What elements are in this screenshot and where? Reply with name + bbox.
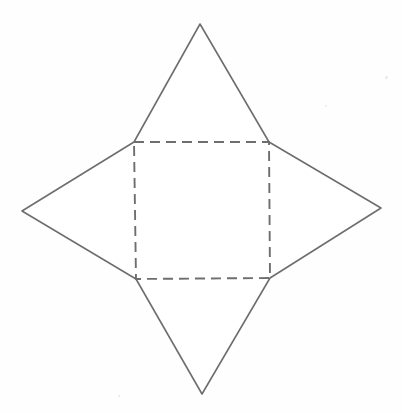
base-square-fill bbox=[134, 142, 270, 279]
triangle-left-fill bbox=[22, 142, 136, 279]
triangle-bottom-fill bbox=[136, 278, 270, 394]
figure-root bbox=[0, 0, 402, 413]
triangle-right-fill bbox=[269, 142, 381, 278]
triangle-top-fill bbox=[134, 24, 269, 142]
face-fills bbox=[22, 24, 381, 394]
net-of-square-pyramid-diagram bbox=[0, 0, 402, 413]
